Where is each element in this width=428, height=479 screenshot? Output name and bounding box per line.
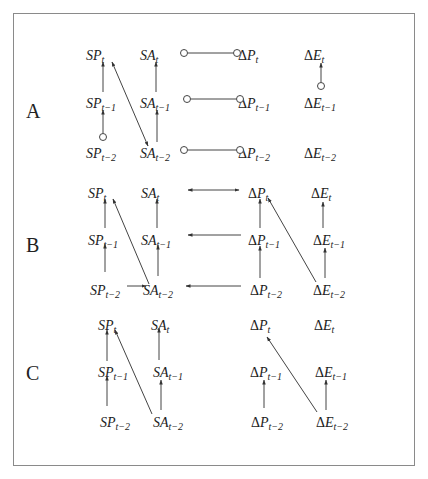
node-sp-t1: SPt−1 xyxy=(86,96,116,113)
node-de-t1: ΔEt−1 xyxy=(313,233,345,250)
circle-endpoint-icon xyxy=(237,96,244,103)
node-sp-t: SPt xyxy=(88,186,107,203)
panel-label: B xyxy=(26,234,39,256)
node-dp-t: ΔPt xyxy=(238,48,259,65)
node-sp-t: SPt xyxy=(86,48,105,65)
node-sp-t1: SPt−1 xyxy=(88,233,118,250)
panel-b: BSPtSPt−1SPt−2SAtSAt−1SAt−2ΔPtΔPt−1ΔPt−2… xyxy=(26,186,345,300)
node-sp-t2: SPt−2 xyxy=(86,146,116,163)
node-sa-t1: SAt−1 xyxy=(141,233,171,250)
node-sa-t2: SAt−2 xyxy=(140,146,170,163)
node-sp-t2: SPt−2 xyxy=(90,283,120,300)
node-dp-t: ΔPt xyxy=(248,186,269,203)
node-sa-t1: SAt−1 xyxy=(153,365,183,382)
node-de-t1: ΔEt−1 xyxy=(304,96,336,113)
node-de-t2: ΔEt−2 xyxy=(304,146,336,163)
node-de-t: ΔEt xyxy=(311,186,332,203)
node-sp-t1: SPt−1 xyxy=(98,365,128,382)
node-sa-t2: SAt−2 xyxy=(153,415,183,432)
panel-a: ASPtSPt−1SPt−2SAtSAt−1SAt−2ΔPtΔPt−1ΔPt−2… xyxy=(26,48,336,163)
circle-endpoint-icon xyxy=(100,134,107,141)
node-dp-t: ΔPt xyxy=(250,318,271,335)
circle-endpoint-icon xyxy=(318,83,325,90)
node-dp-t1: ΔPt−1 xyxy=(250,365,282,382)
node-dp-t2: ΔPt−2 xyxy=(250,283,282,300)
circle-endpoint-icon xyxy=(181,50,188,57)
node-de-t: ΔEt xyxy=(314,318,335,335)
circle-endpoint-icon xyxy=(184,96,191,103)
node-de-t: ΔEt xyxy=(304,48,325,65)
node-dp-t2: ΔPt−2 xyxy=(251,415,283,432)
causal-graph-diagram: ASPtSPt−1SPt−2SAtSAt−1SAt−2ΔPtΔPt−1ΔPt−2… xyxy=(0,0,428,479)
node-sa-t2: SAt−2 xyxy=(143,283,173,300)
circle-endpoint-icon xyxy=(237,147,244,154)
node-dp-t1: ΔPt−1 xyxy=(248,233,280,250)
panel-label: C xyxy=(26,362,39,384)
node-sp-t2: SPt−2 xyxy=(100,415,130,432)
node-de-t2: ΔEt−2 xyxy=(313,283,345,300)
node-sa-t: SAt xyxy=(151,318,170,335)
node-de-t2: ΔEt−2 xyxy=(316,415,348,432)
panel-c: CSPtSPt−1SPt−2SAtSAt−1SAt−2ΔPtΔPt−1ΔPt−2… xyxy=(26,318,348,432)
circle-endpoint-icon xyxy=(181,147,188,154)
node-de-t1: ΔEt−1 xyxy=(315,365,347,382)
panel-label: A xyxy=(26,100,41,122)
node-sa-t1: SAt−1 xyxy=(140,96,170,113)
circle-endpoint-icon xyxy=(234,50,241,57)
